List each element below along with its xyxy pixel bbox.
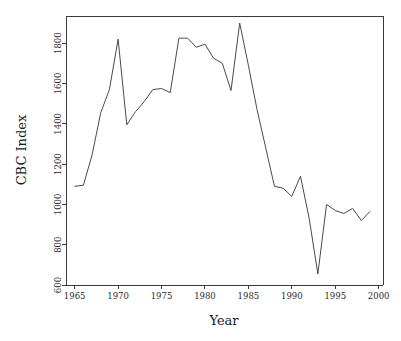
- x-tick-label: 1985: [238, 291, 260, 301]
- y-axis-tick-labels: 60080010001200140016001800: [53, 32, 63, 293]
- x-axis-tick-labels: 19651970197519801985199019952000: [64, 291, 390, 301]
- y-tick-label: 800: [53, 237, 63, 253]
- chart-page: 19651970197519801985199019952000 6008001…: [0, 0, 401, 341]
- y-tick-label: 600: [53, 277, 63, 293]
- x-tick-label: 1965: [64, 291, 86, 301]
- series-line-cbc-index: [75, 23, 370, 274]
- axes-group: [66, 16, 383, 285]
- x-tick-label: 1970: [107, 291, 129, 301]
- y-axis-title: CBC Index: [14, 114, 29, 185]
- tick-marks-group: [62, 43, 379, 289]
- y-tick-label: 1800: [53, 32, 63, 54]
- x-tick-label: 2000: [368, 291, 390, 301]
- cbc-index-line-chart: 19651970197519801985199019952000 6008001…: [0, 0, 401, 341]
- x-tick-label: 1990: [281, 291, 303, 301]
- y-tick-label: 1000: [53, 194, 63, 216]
- x-axis-title: Year: [208, 313, 239, 328]
- x-tick-label: 1975: [151, 291, 173, 301]
- y-tick-label: 1600: [53, 73, 63, 95]
- y-tick-label: 1200: [53, 153, 63, 175]
- y-tick-label: 1400: [53, 113, 63, 135]
- x-tick-label: 1980: [194, 291, 216, 301]
- x-tick-label: 1995: [324, 291, 346, 301]
